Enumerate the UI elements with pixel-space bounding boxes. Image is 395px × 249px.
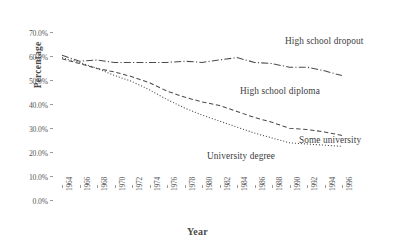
series-line-high-school-diploma [62,59,342,136]
series-label-high-school-dropout: High school dropout [285,36,363,46]
x-tick-label: 1976 [170,157,179,191]
x-tick-mark [132,185,133,188]
x-tick-label: 1980 [205,157,214,191]
x-tick-label: 1966 [83,157,92,191]
x-tick-label: 1978 [188,157,197,191]
x-tick-mark [62,185,63,188]
x-tick-label: 1972 [135,157,144,191]
x-tick-mark [307,185,308,188]
series-line-some-university [62,58,342,147]
x-tick-mark [290,185,291,188]
x-tick-mark [150,185,151,188]
x-tick-mark [185,185,186,188]
x-tick-mark [167,185,168,188]
x-tick-label: 1986 [258,157,267,191]
x-tick-mark [202,185,203,188]
x-tick-mark [325,185,326,188]
x-tick-label: 1968 [100,157,109,191]
x-tick-label: 1990 [293,157,302,191]
x-tick-mark [342,185,343,188]
x-tick-mark [80,185,81,188]
x-tick-label: 1996 [345,157,354,191]
chart-figure: Percentage 0.0% 10.0% 20.0% 30.0% 40.0% … [0,0,395,249]
x-tick-label: 1984 [240,157,249,191]
x-tick-mark [115,185,116,188]
x-tick-label: 1994 [328,157,337,191]
series-line-high-school-dropout [62,55,342,75]
x-tick-label: 1982 [223,157,232,191]
series-label-some-university: Some university [299,135,361,145]
x-tick-mark [237,185,238,188]
x-tick-mark [220,185,221,188]
x-tick-mark [97,185,98,188]
x-axis-title: Year [0,226,395,237]
figure-caption [0,242,395,249]
x-tick-label: 1964 [65,157,74,191]
x-tick-mark [272,185,273,188]
series-label-high-school-diploma: High school diploma [240,86,320,96]
x-tick-label: 1974 [153,157,162,191]
x-tick-label: 1988 [275,157,284,191]
x-tick-label: 1970 [118,157,127,191]
x-tick-mark [255,185,256,188]
x-tick-label: 1992 [310,157,319,191]
